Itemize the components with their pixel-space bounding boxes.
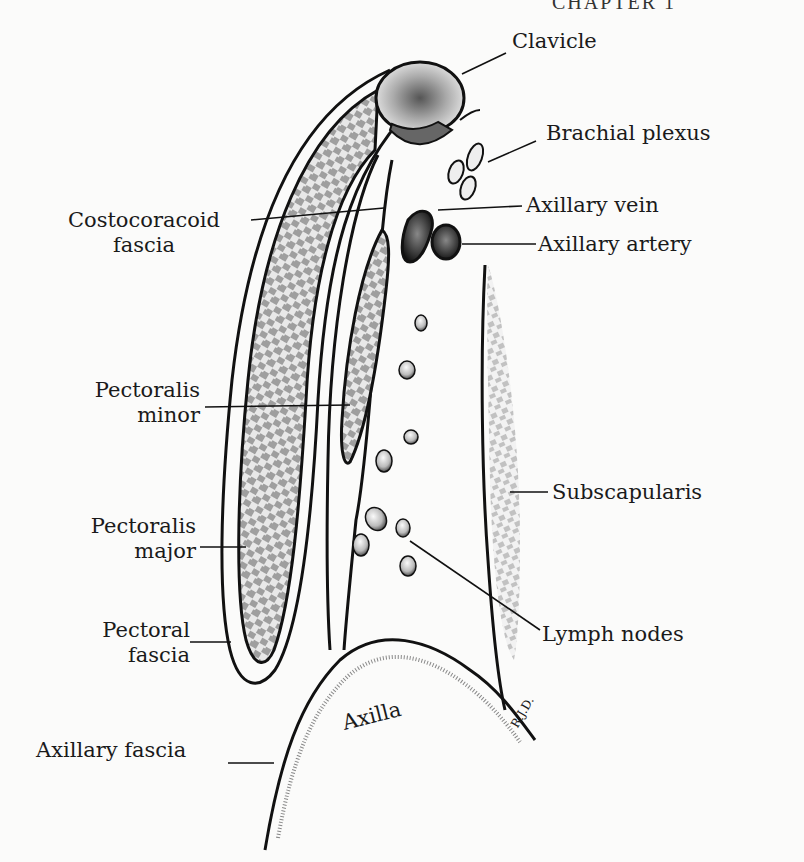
axillary-artery [432,225,460,259]
lymph-node [361,504,390,535]
lymph-node [404,430,418,444]
label-brachial-plexus: Brachial plexus [546,121,711,146]
label-lymph-nodes: Lymph nodes [542,622,684,647]
label-pectoral-fascia: Pectoral fascia [30,618,190,668]
lymph-node [376,450,392,472]
lymph-node [353,534,369,556]
label-axillary-artery: Axillary artery [538,232,692,257]
label-pectoralis-minor: Pectoralis minor [40,378,200,428]
label-costocoracoid-fascia: Costocoracoid fascia [40,208,248,258]
label-axillary-vein: Axillary vein [526,193,659,218]
brachial-plexus-cord [464,141,487,172]
label-subscapularis: Subscapularis [552,480,702,505]
pectoralis-minor [341,230,388,463]
axillary-vein [402,211,432,262]
clavicle [376,62,464,134]
lymph-node [415,315,427,331]
lymph-node [399,361,415,379]
label-axillary-fascia: Axillary fascia [36,738,186,763]
axillary-fascia [265,640,535,850]
lymph-node [396,519,410,537]
label-clavicle: Clavicle [512,29,597,54]
lymph-node [400,556,416,576]
label-pectoralis-major: Pectoralis major [36,514,196,564]
